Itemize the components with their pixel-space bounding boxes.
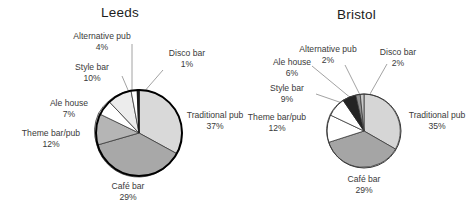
label-disco-bar-bristol: Disco bar 2% — [371, 47, 425, 69]
label-text: Traditional pub — [187, 110, 244, 120]
label-text: Alternative pub — [73, 31, 130, 41]
label-pct: 12% — [238, 123, 316, 134]
label-text: Style bar — [270, 83, 304, 93]
label-text: Disco bar — [380, 47, 416, 57]
label-text: Style bar — [75, 62, 109, 72]
label-pct: 10% — [64, 73, 120, 84]
label-pct: 29% — [96, 192, 160, 203]
label-text: Café bar — [348, 174, 381, 184]
label-pct: 6% — [264, 68, 320, 79]
label-theme-bar-pub-leeds: Theme bar/pub 12% — [12, 128, 90, 150]
label-disco-bar-leeds: Disco bar 1% — [160, 48, 214, 70]
label-pct: 2% — [371, 58, 425, 69]
label-style-bar-leeds: Style bar 10% — [64, 62, 120, 84]
label-theme-bar-pub-bristol: Theme bar/pub 12% — [238, 112, 316, 134]
label-style-bar-bristol: Style bar 9% — [260, 83, 314, 105]
label-pct: 12% — [12, 139, 90, 150]
chart-panel-bristol: Bristol Alternative pub 2% — [240, 0, 473, 213]
label-ale-house-leeds: Ale house 7% — [40, 98, 98, 120]
label-pct: 9% — [260, 94, 314, 105]
chart-panel-leeds: Leeds Alternative pub 4 — [0, 0, 240, 213]
pie-chart-figure: Leeds Alternative pub 4 — [0, 0, 473, 213]
label-cafe-bar-bristol: Café bar 29% — [332, 174, 396, 196]
label-text: Theme bar/pub — [248, 112, 306, 122]
label-text: Café bar — [112, 181, 145, 191]
label-pct: 29% — [332, 185, 396, 196]
label-text: Traditional pub — [409, 110, 466, 120]
label-text: Theme bar/pub — [22, 128, 80, 138]
label-text: Ale house — [273, 57, 311, 67]
label-pct: 4% — [62, 42, 142, 53]
label-alternative-pub-leeds: Alternative pub 4% — [62, 31, 142, 53]
label-pct: 1% — [160, 59, 214, 70]
label-pct: 7% — [40, 109, 98, 120]
label-text: Ale house — [50, 98, 88, 108]
leader-disco-bar — [143, 70, 163, 93]
label-text: Alternative pub — [299, 44, 356, 54]
leader-alternative-pub — [345, 65, 360, 95]
label-traditional-pub-bristol: Traditional pub 35% — [400, 110, 473, 132]
label-ale-house-bristol: Ale house 6% — [264, 57, 320, 79]
label-text: Disco bar — [169, 48, 205, 58]
label-cafe-bar-leeds: Café bar 29% — [96, 181, 160, 203]
label-pct: 35% — [400, 121, 473, 132]
